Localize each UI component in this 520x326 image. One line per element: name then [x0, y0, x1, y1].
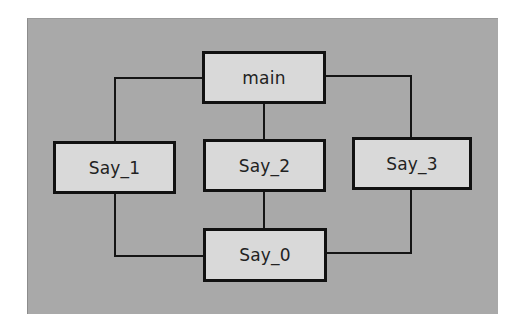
- node-label: Say_2: [239, 156, 291, 176]
- edge-main-say1: [115, 78, 202, 141]
- node-label: Say_0: [239, 245, 291, 265]
- edge-say1-say0: [115, 194, 203, 256]
- edge-main-say3: [326, 76, 411, 137]
- node-say-2: Say_2: [203, 139, 326, 192]
- edge-say3-say0: [327, 190, 411, 253]
- node-label: Say_3: [386, 154, 438, 174]
- node-label: Say_1: [89, 158, 141, 178]
- node-label: main: [242, 68, 285, 88]
- node-say-1: Say_1: [53, 141, 176, 194]
- node-say-3: Say_3: [352, 137, 472, 190]
- node-say-0: Say_0: [203, 228, 327, 282]
- node-main: main: [202, 51, 326, 104]
